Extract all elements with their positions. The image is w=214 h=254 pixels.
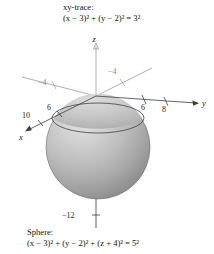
axis-label-z: z [92, 34, 97, 44]
three-d-plot-canvas: z −12 −4 −4 [0, 0, 214, 254]
axis-label-y: y [201, 98, 206, 108]
sphere-top-cap [54, 94, 142, 129]
tick-label-x-6: 6 [47, 103, 51, 112]
tick-label-x-10: 10 [22, 111, 30, 120]
sphere-caption: Sphere: (x − 3)² + (y − 2)² + (z + 4)² =… [27, 227, 139, 249]
sphere-caption-equation: (x − 3)² + (y − 2)² + (z + 4)² = 5² [27, 238, 139, 248]
figure-root: xy-trace: (x − 3)² + (y − 2)² = 3² [0, 0, 214, 254]
axis-y-negative: −4 [22, 77, 96, 96]
sphere-caption-title: Sphere: [27, 227, 139, 237]
tick-label-y-negative-4: −4 [38, 78, 47, 87]
tick-label-y-8: 8 [162, 105, 166, 114]
tick-label-x-negative-4: −4 [108, 67, 117, 76]
tick-label-z-negative-12: −12 [62, 211, 75, 220]
tick-label-y-6: 6 [141, 103, 145, 112]
axis-x-negative: −4 [96, 67, 152, 96]
axis-label-x: x [18, 132, 23, 142]
